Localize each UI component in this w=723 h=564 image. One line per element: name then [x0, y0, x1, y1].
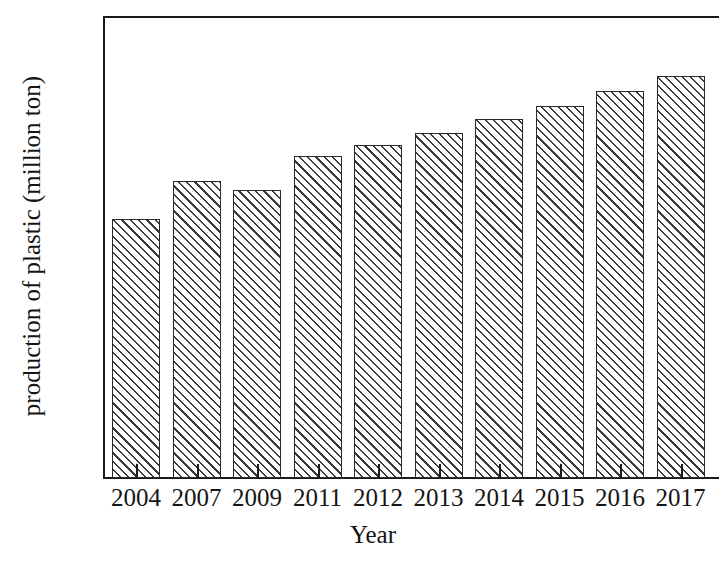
x-axis-tick-mark [499, 464, 501, 478]
x-axis-tick-mark [257, 464, 259, 478]
x-axis-tick-mark [136, 464, 138, 478]
bar [475, 119, 523, 478]
x-axis-tick-mark [439, 464, 441, 478]
bar [294, 156, 342, 478]
x-axis-tick-mark [197, 464, 199, 478]
x-axis-tick-mark [318, 464, 320, 478]
bar [173, 181, 221, 478]
bar [354, 145, 402, 478]
x-axis-tick-label: 2017 [636, 484, 723, 512]
x-axis-title: Year [103, 521, 643, 549]
x-axis-tick-mark [378, 464, 380, 478]
x-axis-tick-mark [560, 464, 562, 478]
bars-layer [105, 16, 719, 478]
x-axis-tick-mark [681, 464, 683, 478]
bar [233, 190, 281, 478]
bar [536, 106, 584, 478]
bar [657, 76, 705, 478]
bar [415, 133, 463, 478]
bar [596, 91, 644, 478]
bar [112, 219, 160, 478]
x-axis-tick-mark [620, 464, 622, 478]
y-axis-title: production of plastic (million ton) [18, 6, 46, 486]
